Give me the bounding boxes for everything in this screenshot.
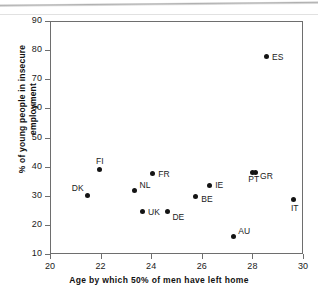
data-point-label-gr: GR (260, 171, 273, 181)
x-axis-tick-label: 22 (81, 261, 121, 271)
data-point-label-es: ES (272, 52, 284, 62)
scatter-chart-figure: % of young people in insecure employment… (0, 0, 318, 291)
y-axis-tick-label: 90 (2, 15, 42, 25)
data-point-au (231, 234, 236, 239)
x-axis-title: Age by which 50% of men have left home (0, 275, 318, 285)
x-axis-tick-label: 30 (283, 261, 318, 271)
data-point-fi (97, 167, 102, 172)
y-axis-tick-label: 60 (2, 102, 42, 112)
y-axis-tick-label: 10 (2, 248, 42, 258)
data-point-de (165, 209, 170, 214)
data-point-it (291, 197, 296, 202)
scan-artifact-line-secondary (0, 14, 318, 15)
data-point-label-dk: DK (72, 183, 84, 193)
x-axis-tick-label: 28 (232, 261, 272, 271)
plot-area: DKFINLUKDEFRBEIEAUPTGRESIT (50, 21, 303, 254)
x-axis-tick-label: 20 (30, 261, 70, 271)
data-point-uk (140, 209, 145, 214)
y-axis-tick-label: 20 (2, 219, 42, 229)
data-point-label-ie: IE (215, 180, 223, 190)
x-axis-tick (303, 254, 304, 259)
data-point-dk (85, 193, 90, 198)
data-point-ie (207, 183, 212, 188)
x-axis-tick (50, 254, 51, 259)
data-point-label-fr: FR (158, 169, 170, 179)
scan-artifact-line (0, 1, 318, 7)
y-axis-tick-label: 50 (2, 132, 42, 142)
y-axis-tick-label: 30 (2, 190, 42, 200)
x-axis-tick (202, 254, 203, 259)
x-axis-tick (151, 254, 152, 259)
data-point-label-pt: PT (248, 174, 259, 184)
x-axis-tick-label: 24 (131, 261, 171, 271)
data-point-label-nl: NL (139, 180, 150, 190)
data-point-be (193, 194, 198, 199)
data-point-label-uk: UK (148, 207, 160, 217)
x-axis-tick (101, 254, 102, 259)
y-axis-tick-label: 40 (2, 161, 42, 171)
data-point-es (264, 54, 269, 59)
data-point-fr (150, 171, 155, 176)
y-axis-tick-label: 80 (2, 44, 42, 54)
data-point-label-it: IT (291, 203, 299, 213)
data-point-label-au: AU (238, 226, 250, 236)
x-axis-tick (252, 254, 253, 259)
data-point-label-be: BE (201, 194, 213, 204)
data-point-nl (132, 188, 137, 193)
data-point-label-de: DE (172, 212, 184, 222)
y-axis-tick-label: 70 (2, 73, 42, 83)
data-point-label-fi: FI (96, 156, 104, 166)
x-axis-tick-label: 26 (182, 261, 222, 271)
